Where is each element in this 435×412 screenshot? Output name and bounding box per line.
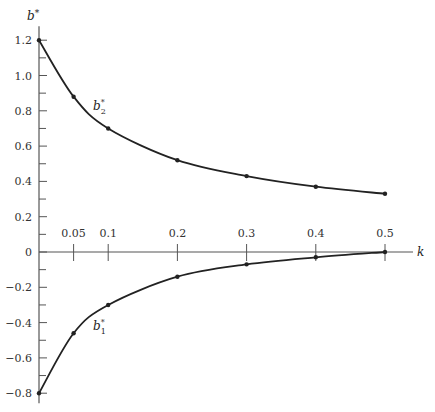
y-tick-label: 1.0 [15,70,33,83]
chart-plot: 1.21.00.80.60.40.20−0.2−0.4−0.6−0.80.050… [0,0,435,412]
x-tick-label: 0.1 [99,227,117,240]
axes: 1.21.00.80.60.40.20−0.2−0.4−0.6−0.80.050… [5,26,413,403]
x-tick-label: 0.2 [169,227,187,240]
y-tick-label: 1.2 [15,34,33,47]
x-tick-label: 0.05 [61,227,86,240]
data-point [175,275,179,279]
data-point [383,250,387,254]
data-point [244,262,248,266]
y-tick-label: 0.2 [15,211,33,224]
y-tick-label: −0.2 [5,281,32,294]
y-tick-label: 0.6 [15,140,33,153]
y-tick-label: −0.6 [5,352,32,365]
data-point [383,192,387,196]
data-point [37,38,41,42]
y-tick-label: −0.4 [5,317,32,330]
curves [37,38,387,395]
data-point [244,174,248,178]
data-point [71,94,75,98]
y-axis-title: b* [27,8,40,23]
data-point [175,158,179,162]
curve-label-b1-star: b*1 [93,318,106,336]
data-point [314,184,318,188]
curve-b1-star [39,252,385,393]
data-point [71,331,75,335]
curve-b2-star [39,40,385,194]
x-tick-label: 0.4 [307,227,325,240]
data-point [314,255,318,259]
y-tick-label: 0 [25,246,32,259]
curve-label-b2-star: b*2 [93,98,106,116]
data-point [37,391,41,395]
data-point [106,126,110,130]
y-tick-label: 0.4 [15,175,33,188]
y-tick-label: −0.8 [5,387,32,400]
data-point [106,303,110,307]
x-tick-label: 0.3 [238,227,256,240]
x-tick-label: 0.5 [376,227,394,240]
x-axis-title: k [417,245,424,259]
y-tick-label: 0.8 [15,105,33,118]
